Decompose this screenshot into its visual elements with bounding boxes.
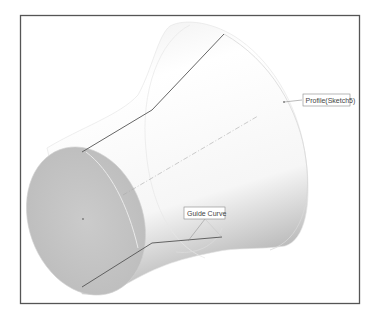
- profile-callout-label: Profile(Sketch5): [306, 97, 356, 105]
- cad-viewport: Profile(Sketch5) Guide Curve: [0, 0, 376, 318]
- guide-curve-callout-label: Guide Curve: [187, 210, 226, 217]
- end-face-center-point: [82, 218, 84, 220]
- profile-leader-dot: [283, 101, 285, 103]
